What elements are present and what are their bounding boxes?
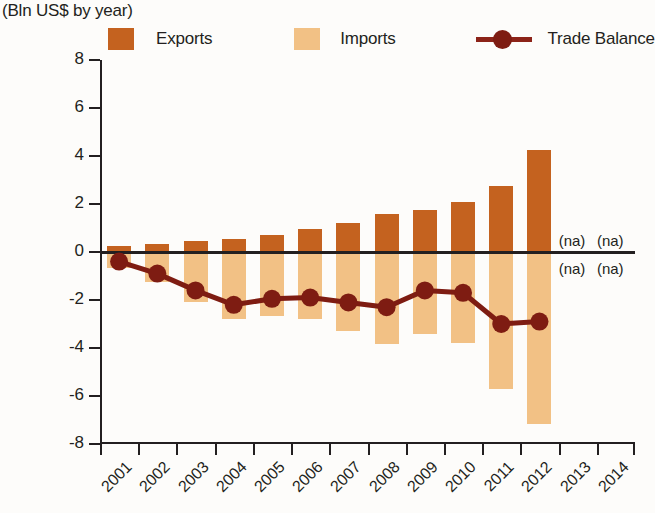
trade-balance-point [301,289,319,307]
x-axis-tick [597,444,599,455]
y-axis-tick [89,155,100,157]
y-axis-tick [89,299,100,301]
y-axis-tick [89,251,100,253]
trade-balance-point [263,290,281,308]
legend-item-trade-balance: Trade Balance [476,28,655,50]
x-axis-tick [482,444,484,455]
legend-swatch-exports-icon [108,28,134,50]
na-label-above-2013: (na) [559,232,586,249]
legend-swatch-imports-icon [294,28,320,50]
y-axis-tick [89,203,100,205]
trade-balance-point [492,315,510,333]
x-axis-tick [329,444,331,455]
trade-balance-point [187,281,205,299]
x-axis-tick [100,444,102,455]
y-axis-tick-label: 4 [44,145,84,165]
plot-area: 86420-2-4-6-8 (na)(na)(na)(na) 200120022… [100,60,635,444]
x-axis-tick [520,444,522,455]
x-axis-tick [633,444,635,455]
y-axis-tick-label: 8 [44,49,84,69]
legend-label-trade-balance: Trade Balance [548,29,655,49]
trade-balance-point [416,281,434,299]
x-axis-tick [444,444,446,455]
trade-balance-line [119,262,539,324]
trade-balance-line-layer [100,60,635,444]
x-axis-tick [406,444,408,455]
trade-balance-point [148,265,166,283]
legend-item-exports: Exports [108,28,212,50]
legend-label-imports: Imports [340,29,395,49]
trade-balance-point [454,284,472,302]
na-label-below-2014: (na) [597,260,624,277]
legend-line-marker-icon [476,28,532,50]
trade-balance-point [530,313,548,331]
na-label-above-2014: (na) [597,232,624,249]
y-axis-tick-label: -4 [44,337,84,357]
x-axis-tick [138,444,140,455]
y-axis-tick [89,347,100,349]
trade-balance-point [225,296,243,314]
x-axis-tick [368,444,370,455]
na-label-below-2013: (na) [559,260,586,277]
chart-subtitle: (Bln US$ by year) [2,1,133,21]
x-axis-tick [176,444,178,455]
x-axis-tick [215,444,217,455]
y-axis-tick [89,107,100,109]
x-axis-tick [253,444,255,455]
x-axis-tick [291,444,293,455]
y-axis-tick-label: -8 [44,433,84,453]
legend-label-exports: Exports [156,29,212,49]
y-axis-tick-label: 2 [44,193,84,213]
trade-balance-point [339,293,357,311]
y-axis-tick [89,443,100,445]
legend-item-imports: Imports [294,28,395,50]
x-axis-tick [559,444,561,455]
y-axis-tick-label: -2 [44,289,84,309]
y-axis-tick [89,59,100,61]
chart-legend: Exports Imports Trade Balance [108,28,655,50]
y-axis-tick-label: -6 [44,385,84,405]
trade-balance-point [110,253,128,271]
y-axis-tick [89,395,100,397]
trade-balance-point [378,298,396,316]
y-axis-tick-label: 0 [44,241,84,261]
y-axis-tick-label: 6 [44,97,84,117]
